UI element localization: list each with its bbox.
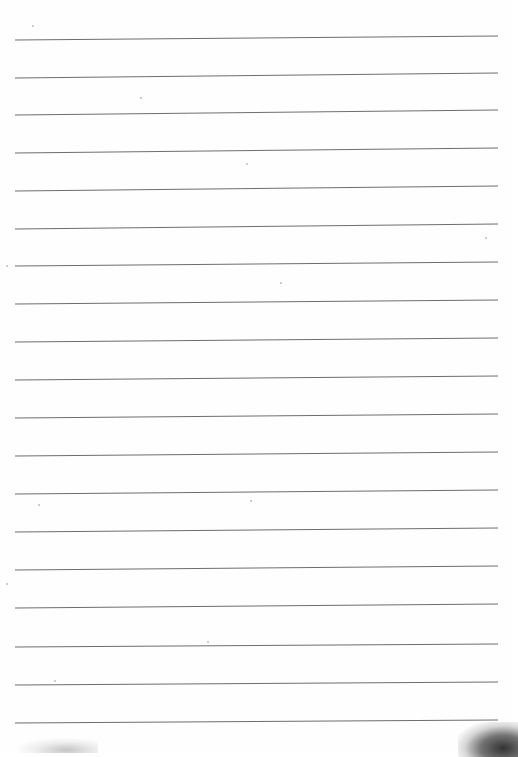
ruled-line xyxy=(15,644,498,647)
ruled-line xyxy=(15,452,498,456)
ruled-line xyxy=(15,414,498,418)
ruled-line xyxy=(15,682,498,685)
ruled-line xyxy=(15,262,498,266)
ruled-line xyxy=(15,490,498,494)
ruled-line xyxy=(15,376,498,380)
paper-speck xyxy=(54,680,56,682)
paper-speck xyxy=(6,583,8,585)
ruled-line xyxy=(15,224,498,229)
paper-speck xyxy=(32,25,34,27)
paper-speck xyxy=(6,265,8,267)
ruled-line xyxy=(15,566,498,570)
ruled-line xyxy=(15,110,498,115)
paper-speck xyxy=(207,641,209,643)
paper-speck xyxy=(250,500,252,502)
ruled-line xyxy=(15,604,498,608)
paper-speck xyxy=(485,237,487,239)
ruled-line xyxy=(15,73,498,78)
paper-speck xyxy=(38,504,40,506)
ruled-line xyxy=(15,36,498,40)
paper-speck xyxy=(246,163,248,165)
ruled-line xyxy=(15,528,498,532)
ruled-line xyxy=(15,300,498,304)
ruled-line xyxy=(15,148,498,153)
paper-speck xyxy=(280,282,282,284)
ruled-line xyxy=(15,720,498,723)
ruled-line xyxy=(15,338,498,342)
paper-speck xyxy=(140,97,142,99)
ruled-line xyxy=(15,186,498,191)
